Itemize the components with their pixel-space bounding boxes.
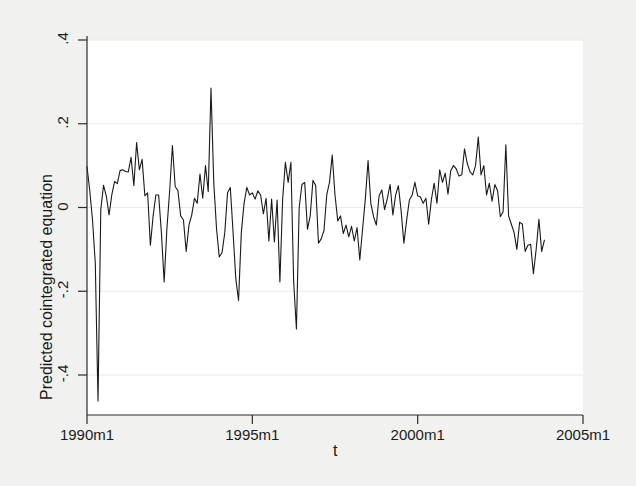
y-tick-label-4: -.4 — [54, 362, 71, 386]
y-tick-label-1: .2 — [54, 110, 71, 134]
y-axis-title: Predicted cointegrated equation — [38, 174, 56, 400]
y-tick-label-2: 0 — [54, 194, 71, 218]
y-tick-label-3: -.2 — [54, 278, 71, 302]
y-tick-label-0: .4 — [54, 27, 71, 51]
x-axis-title: t — [333, 442, 337, 460]
x-tick-label-2: 2000m1 — [384, 426, 452, 443]
y-tick-marks — [78, 40, 87, 375]
x-tick-label-3: 2005m1 — [549, 426, 617, 443]
axes-layer — [0, 0, 636, 486]
x-tick-marks — [87, 415, 583, 424]
x-tick-label-0: 1990m1 — [53, 426, 121, 443]
x-tick-label-1: 1995m1 — [218, 426, 286, 443]
chart-canvas: .4.20-.2-.4 1990m11995m12000m12005m1 Pre… — [0, 0, 636, 486]
